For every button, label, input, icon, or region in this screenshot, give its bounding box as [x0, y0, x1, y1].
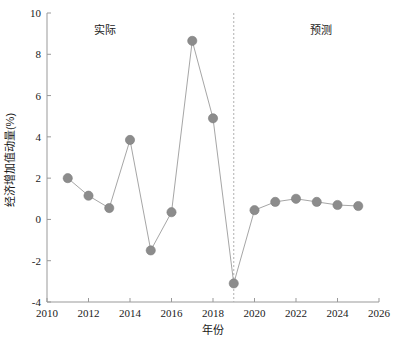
y-axis-title: 经济增加值动量(%)	[3, 113, 16, 207]
actual-region-label: 实际	[94, 23, 116, 36]
y-tick-label: 4	[36, 131, 42, 143]
y-tick-label: 10	[30, 7, 42, 19]
data-point-marker	[146, 246, 155, 255]
x-tick-label: 2018	[202, 307, 225, 319]
data-point-marker	[188, 36, 197, 45]
data-point-marker	[354, 201, 363, 210]
data-point-marker	[333, 200, 342, 209]
data-point-marker	[208, 114, 217, 123]
chart-figure: 201020122014201620182020202220242026 -4-…	[0, 0, 395, 342]
y-tick-label: 6	[36, 90, 42, 102]
y-tick-label: 0	[36, 213, 42, 225]
forecast-region-label: 预测	[310, 24, 332, 36]
y-tick-labels: -4-20246810	[30, 7, 42, 308]
axis-spines	[47, 13, 379, 302]
x-tick-labels: 201020122014201620182020202220242026	[36, 307, 391, 319]
x-tick-label: 2014	[119, 307, 142, 319]
y-tick-label: -2	[32, 255, 41, 267]
data-point-marker	[63, 174, 72, 183]
x-tick-label: 2012	[78, 307, 100, 319]
data-point-marker	[167, 208, 176, 217]
data-point-marker	[250, 206, 259, 215]
x-tick-label: 2020	[244, 307, 267, 319]
x-tick-label: 2010	[36, 307, 59, 319]
series-markers	[63, 36, 363, 288]
x-tick-label: 2026	[368, 307, 391, 319]
y-tick-label: 2	[36, 172, 42, 184]
axes	[47, 13, 379, 302]
x-tick-label: 2024	[327, 307, 350, 319]
data-point-marker	[312, 197, 321, 206]
series-path	[68, 41, 359, 284]
data-point-marker	[271, 197, 280, 206]
data-point-marker	[105, 203, 114, 212]
economic-value-added-momentum-line-chart: 201020122014201620182020202220242026 -4-…	[0, 0, 395, 342]
data-point-marker	[84, 191, 93, 200]
data-point-marker	[291, 194, 300, 203]
data-point-marker	[229, 279, 238, 288]
y-tick-label: -4	[32, 296, 42, 308]
series-line	[68, 41, 359, 284]
x-axis-title: 年份	[202, 323, 224, 336]
y-tick-label: 8	[36, 48, 42, 60]
x-tick-label: 2022	[285, 307, 307, 319]
x-tick-label: 2016	[161, 307, 184, 319]
data-point-marker	[125, 135, 134, 144]
region-labels: 实际预测	[94, 23, 332, 36]
